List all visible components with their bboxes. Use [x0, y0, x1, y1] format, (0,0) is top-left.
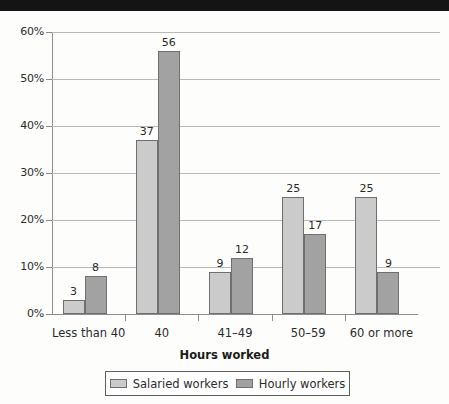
x-tick-label-1: 40	[125, 326, 198, 340]
bar-value-label-salaried-4: 25	[349, 182, 383, 195]
bar-value-label-salaried-3: 25	[276, 182, 310, 195]
y-tick-50	[46, 79, 52, 80]
gridline-40	[52, 126, 440, 127]
y-tick-10	[46, 267, 52, 268]
y-tick-label-30: 30%	[0, 166, 44, 179]
bar-salaried-3[interactable]	[282, 197, 304, 315]
legend-swatch-icon-salaried	[110, 379, 127, 388]
bar-salaried-2[interactable]	[209, 272, 231, 314]
x-tick-1	[125, 315, 126, 321]
y-axis-labels: 0%10%20%30%40%50%60%	[0, 11, 44, 404]
bar-value-label-hourly-0: 8	[79, 261, 113, 274]
bar-hourly-2[interactable]	[231, 258, 253, 314]
x-axis-baseline	[52, 314, 418, 315]
gridline-50	[52, 79, 440, 80]
legend-item-salaried[interactable]: Salaried workers	[110, 377, 229, 391]
bar-value-label-hourly-3: 17	[298, 219, 332, 232]
y-tick-60	[46, 32, 52, 33]
legend-label-salaried: Salaried workers	[133, 377, 229, 391]
bar-value-label-hourly-4: 9	[371, 257, 405, 270]
y-tick-label-10: 10%	[0, 260, 44, 273]
bar-value-label-hourly-1: 56	[152, 36, 186, 49]
y-tick-label-20: 20%	[0, 213, 44, 226]
chart-legend: Salaried workers Hourly workers	[105, 371, 350, 396]
grouped-bar-chart: 0%10%20%30%40%50%60% 3837569122517259 Le…	[0, 11, 449, 404]
y-tick-label-40: 40%	[0, 119, 44, 132]
x-tick-2	[198, 315, 199, 321]
x-tick-label-0: Less than 40	[52, 326, 125, 340]
y-tick-label-0: 0%	[0, 307, 44, 320]
x-tick-3	[272, 315, 273, 321]
legend-item-hourly[interactable]: Hourly workers	[236, 377, 346, 391]
bar-salaried-4[interactable]	[355, 197, 377, 315]
y-tick-label-50: 50%	[0, 72, 44, 85]
bar-hourly-1[interactable]	[158, 51, 180, 314]
x-tick-label-2: 41–49	[198, 326, 271, 340]
bar-value-label-hourly-2: 12	[225, 243, 259, 256]
bar-salaried-1[interactable]	[136, 140, 158, 314]
bar-hourly-4[interactable]	[377, 272, 399, 314]
bar-salaried-0[interactable]	[63, 300, 85, 314]
x-tick-4	[345, 315, 346, 321]
scan-artifact-band	[0, 0, 449, 11]
gridline-30	[52, 173, 440, 174]
plot-area: 3837569122517259	[52, 32, 418, 314]
y-tick-label-60: 60%	[0, 25, 44, 38]
bar-hourly-3[interactable]	[304, 234, 326, 314]
legend-label-hourly: Hourly workers	[259, 377, 346, 391]
y-tick-20	[46, 220, 52, 221]
x-axis-title: Hours worked	[0, 348, 449, 362]
y-tick-30	[46, 173, 52, 174]
gridline-60	[52, 32, 440, 33]
bar-hourly-0[interactable]	[85, 276, 107, 314]
legend-swatch-icon-hourly	[236, 379, 253, 388]
y-tick-40	[46, 126, 52, 127]
gridline-20	[52, 220, 440, 221]
x-tick-label-4: 60 or more	[345, 326, 418, 340]
x-tick-label-3: 50–59	[272, 326, 345, 340]
y-tick-0	[46, 314, 52, 315]
